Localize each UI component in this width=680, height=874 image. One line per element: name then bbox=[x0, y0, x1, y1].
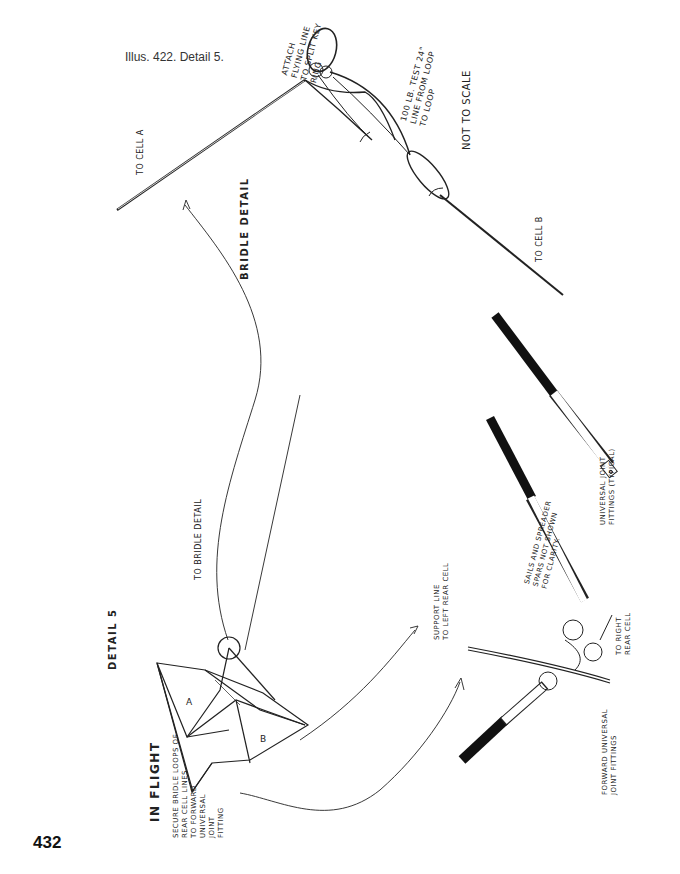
to-cell-b-label: TO CELL B bbox=[535, 216, 545, 262]
bridle-detail-title: BRIDLE DETAIL bbox=[240, 177, 250, 280]
universal-joint-note: UNIVERSAL JOINT FITTINGS (TYPICAL) bbox=[599, 448, 617, 525]
page-number: 432 bbox=[33, 833, 61, 853]
kite-illustration bbox=[0, 0, 680, 874]
support-line-note: SUPPORT LINE TO LEFT REAR CELL bbox=[433, 562, 451, 640]
to-cell-a-label: TO CELL A bbox=[136, 129, 146, 175]
secure-note: SECURE BRIDLE LOOPS OF REAR CELL LINES T… bbox=[172, 734, 226, 838]
not-to-scale-label: NOT TO SCALE bbox=[462, 70, 472, 150]
to-right-rear-note: TO RIGHT REAR CELL bbox=[615, 612, 633, 655]
to-bridle-detail-label: TO BRIDLE DETAIL bbox=[194, 499, 204, 580]
detail-5-label: DETAIL 5 bbox=[108, 609, 118, 670]
cell-b-marker: B bbox=[260, 734, 267, 744]
cell-a-marker: A bbox=[186, 697, 193, 707]
forward-universal-note: FORWARD UNIVERSAL JOINT FITTINGS bbox=[601, 709, 619, 795]
in-flight-title: IN FLIGHT bbox=[150, 741, 160, 822]
bridle-diagram bbox=[117, 25, 563, 295]
